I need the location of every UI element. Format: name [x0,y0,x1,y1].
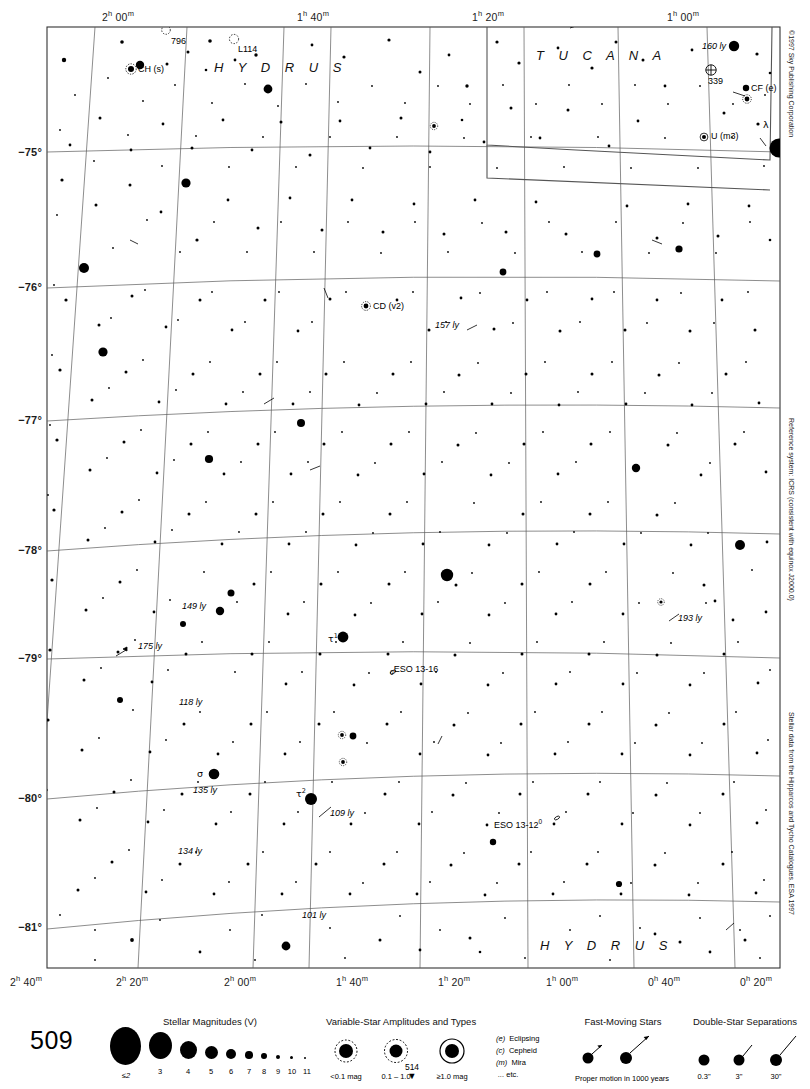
object-label-135ly: 135 ly [193,785,217,795]
object-label-tau1: τ1 [328,632,338,644]
legend-variable-stars: Variable-Star Amplitudes and Types <0.1 … [322,1016,562,1027]
magnitude-dot-11 [304,1057,306,1059]
ra-label-top: 1h 00m [667,9,699,23]
ra-label-top: 1h 40m [297,9,329,23]
star-bright [770,139,789,158]
legend-title-variables: Variable-Star Amplitudes and Types [322,1016,562,1027]
next-chart-arrow: ▼ [392,1072,432,1080]
object-label-U: U (m3) [711,131,739,141]
double-star-label-2: 3" [721,1072,757,1081]
variable-amplitude-label-3: ≥1.0 mag [424,1072,480,1081]
ra-label-bottom: 2h 20m [116,974,148,988]
constellation-label-hydrus: H Y D R U S [214,60,347,75]
object-label-157ly: 157 ly [435,320,459,330]
variable-amplitude-label-1: <0.1 mag [318,1072,374,1081]
star-chart-page: 2h 00m 1h 40m 1h 20m 1h 00m 2h 40m 2h 20… [0,0,810,1089]
magnitude-label-8: 8 [257,1067,271,1076]
dec-label: −77° [0,414,42,426]
magnitude-label-2: ≤2 [112,1071,140,1080]
copyright-notice: ©1997 Sky Publishing Corporation [788,30,795,137]
ra-label-bottom: 2h 00m [224,974,256,988]
object-label-ESO-13-12: ESO 13-120 [494,818,542,830]
magnitude-label-5: 5 [204,1067,218,1076]
variable-type-etc: ... etc. [498,1070,518,1079]
double-star-label-1: 0.3" [684,1072,724,1081]
reference-system-note: Reference system: ICRS (consistent with … [788,418,795,601]
object-label-109ly: 109 ly [330,808,354,818]
legend-title-double-stars: Double-Star Separations [682,1016,808,1027]
magnitude-dot-6 [226,1049,236,1059]
magnitude-label-11: 11 [299,1067,315,1076]
object-label-CF: CF (e) [751,83,777,93]
stellar-data-note: Stellar data from the Hipparcos and Tych… [788,712,795,915]
dec-label: −75° [0,146,42,158]
object-label-339: 339 [708,76,723,86]
object-label-ESO-13-16: 0ESO 13-16 [390,664,438,676]
dec-label: −76° [0,281,42,293]
magnitude-dot-3 [149,1032,172,1059]
legend-stellar-magnitudes: Stellar Magnitudes (V) ≤2 3 4 5 6 7 8 [100,1016,320,1065]
object-label-CH: CH (s) [138,64,164,74]
double-star-symbols [682,1032,808,1076]
map-frame [47,27,780,968]
legend-fast-moving-stars: Fast-Moving Stars Proper motion in 1000 … [548,1016,698,1027]
object-label-118ly: 118 ly [179,697,202,707]
object-label-lambda: λ [763,119,769,130]
constellation-label-hydrus-lower: H Y D R U S [540,938,673,953]
magnitude-dot-7 [245,1051,253,1059]
ra-label-top: 1h 20m [472,9,504,23]
magnitude-label-9: 9 [271,1067,285,1076]
fast-moving-symbols [548,1032,698,1072]
variable-type-cepheid: (c) Cepheid [496,1046,537,1055]
magnitude-label-7: 7 [242,1067,256,1076]
object-label-134ly: 134 ly [178,846,202,856]
variable-type-mira: (m) Mira [496,1058,526,1067]
ra-label-bottom: 0h 40m [648,974,680,988]
next-chart-pointer[interactable]: 514 ▼ [392,1062,432,1080]
star-bright [79,263,89,273]
ra-label-bottom: 0h 20m [740,974,772,988]
star-bright [729,41,739,51]
dec-label: −81° [0,921,42,933]
variable-type-eclipsing: (e) Eclipsing [496,1034,539,1043]
ra-label-bottom: 1h 20m [438,974,470,988]
object-label-796: 796 [171,36,186,46]
object-label-sigma: σ [197,768,203,779]
legend-title-magnitudes: Stellar Magnitudes (V) [100,1016,320,1027]
globular-cluster-339 [706,65,716,75]
object-label-tau2: τ2 [296,787,306,799]
magnitude-label-10: 10 [284,1067,300,1076]
ra-label-bottom: 1h 40m [336,974,368,988]
magnitude-dot-2 [110,1027,141,1065]
ra-label-bottom: 2h 40m [10,974,42,988]
magnitude-dot-5 [205,1046,218,1059]
ra-label-bottom: 1h 00m [546,974,578,988]
object-label-160ly: 160 ly [702,41,726,51]
legend-double-star-separations: Double-Star Separations 0.3" 3" 30" [682,1016,808,1027]
double-star-label-3: 30" [758,1072,794,1081]
magnitude-dot-9 [276,1055,280,1059]
object-label-CD: CD (v2) [373,301,404,311]
object-label-149ly: 149 ly [182,601,206,611]
dec-label: −79° [0,652,42,664]
magnitude-label-6: 6 [224,1067,238,1076]
object-label-175ly: 175 ly [138,641,162,651]
object-label-193ly: 193 ly [678,613,702,623]
magnitude-label-3: 3 [148,1067,172,1076]
sky-map [0,0,810,1089]
constellation-label-tucana: T U C A N A [536,48,667,63]
object-label-L114: L114 [238,44,257,54]
magnitude-dot-8 [261,1053,267,1059]
dec-label: −78° [0,544,42,556]
magnitude-dot-4 [180,1041,197,1059]
ra-label-top: 2h 00m [102,9,134,23]
magnitude-dot-10 [290,1056,293,1059]
object-label-101ly: 101 ly [302,910,326,920]
magnitude-label-4: 4 [179,1067,197,1076]
dec-label: −80° [0,792,42,804]
legend-title-fast-moving: Fast-Moving Stars [548,1016,698,1027]
